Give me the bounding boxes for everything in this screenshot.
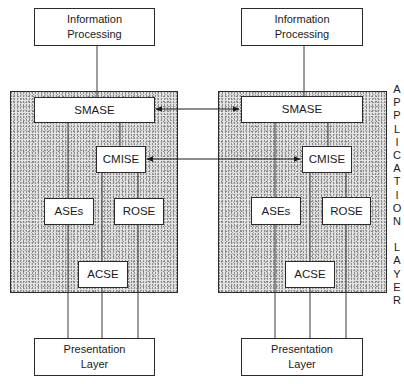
left-presentation-layer-box: Presentation Layer xyxy=(34,338,155,376)
side-label-letter: L xyxy=(391,241,403,254)
right-cmise-box: CMISE xyxy=(302,146,352,173)
side-label-letter: N xyxy=(391,215,403,228)
side-label-letter: I xyxy=(391,136,403,149)
side-label-letter: E xyxy=(391,281,403,294)
right-smase-box: SMASE xyxy=(241,96,363,123)
left-smase-box: SMASE xyxy=(34,97,155,123)
side-label-letter: I xyxy=(391,189,403,202)
left-ases-box: ASEs xyxy=(44,198,94,225)
left-information-processing-box: Information Processing xyxy=(34,8,155,46)
side-label-letter: C xyxy=(391,149,403,162)
side-label-letter: L xyxy=(391,123,403,136)
side-label-letter: P xyxy=(391,96,403,109)
left-cmise-box: CMISE xyxy=(96,146,146,173)
side-label-letter: P xyxy=(391,109,403,122)
side-label-letter: A xyxy=(391,254,403,267)
side-label-letter xyxy=(391,228,403,241)
side-label-letter: Y xyxy=(391,268,403,281)
side-label-letter: R xyxy=(391,294,403,307)
right-acse-box: ACSE xyxy=(285,261,335,288)
side-label-letter: T xyxy=(391,175,403,188)
right-presentation-layer-box: Presentation Layer xyxy=(241,338,363,376)
side-label-letter: A xyxy=(391,162,403,175)
side-label-letter: A xyxy=(391,83,403,96)
right-rose-box: ROSE xyxy=(322,197,371,225)
left-acse-box: ACSE xyxy=(78,261,128,288)
right-information-processing-box: Information Processing xyxy=(241,8,363,46)
side-label-letter: O xyxy=(391,202,403,215)
left-rose-box: ROSE xyxy=(114,198,164,225)
application-layer-side-label: A P P L I C A T I O N L A Y E R xyxy=(391,83,403,307)
right-ases-box: ASEs xyxy=(251,197,301,225)
